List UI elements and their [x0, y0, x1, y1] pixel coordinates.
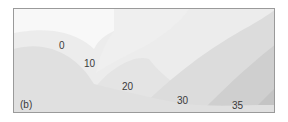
- panel-label: (b): [20, 100, 32, 110]
- contour-label-20: 20: [122, 82, 133, 92]
- contour-label-30: 30: [177, 96, 188, 106]
- contour-regions: [14, 9, 275, 113]
- diagram-panel: 0 10 20 30 35 (b): [13, 8, 275, 113]
- contour-label-0: 0: [59, 41, 65, 51]
- contour-label-10: 10: [84, 59, 95, 69]
- contour-label-35: 35: [232, 101, 243, 111]
